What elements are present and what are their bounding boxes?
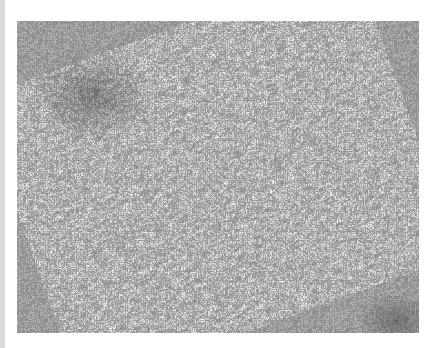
histology-micrograph xyxy=(17,21,419,333)
tissue-texture xyxy=(17,21,419,333)
left-edge-strip xyxy=(0,0,5,348)
